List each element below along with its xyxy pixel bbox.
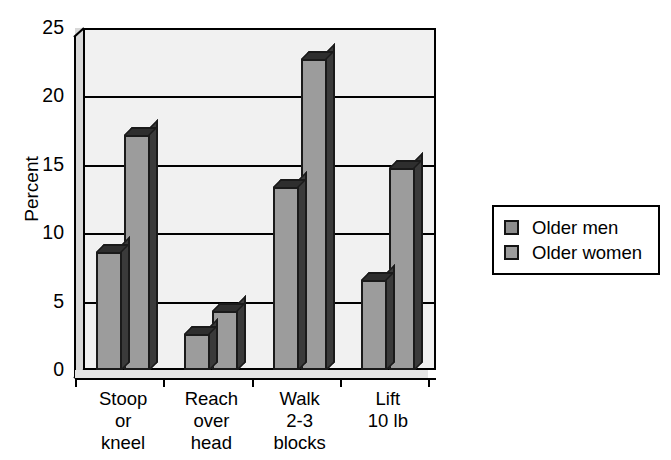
- x-axis-label-line: Lift: [333, 388, 443, 410]
- bar-front-face: [96, 252, 122, 370]
- bar: [361, 280, 387, 370]
- x-tick-mark: [428, 378, 430, 387]
- bar-front-face: [361, 280, 387, 370]
- bar: [184, 334, 210, 370]
- bar-side-face: [415, 152, 423, 370]
- legend-item-older-men[interactable]: Older men: [504, 215, 648, 240]
- bar-side-face: [299, 171, 307, 370]
- legend-swatch-icon: [504, 220, 519, 235]
- bar-front-face: [273, 187, 299, 370]
- x-axis-label: Lift10 lb: [333, 388, 443, 432]
- legend-item-label: Older women: [532, 242, 642, 264]
- x-axis-label-line: blocks: [245, 432, 355, 454]
- x-tick-mark: [252, 378, 254, 387]
- bar-front-face: [184, 334, 210, 370]
- legend-item-label: Older men: [532, 217, 618, 239]
- legend-swatch-icon: [504, 245, 519, 260]
- bar-side-face: [122, 236, 130, 370]
- bar-side-face: [327, 43, 335, 370]
- x-tick-mark: [75, 378, 77, 387]
- bar: [273, 187, 299, 370]
- bar-side-face: [150, 119, 158, 370]
- bar-side-face: [387, 264, 395, 370]
- x-axis-line: [75, 378, 436, 380]
- bar-chart: Percent 0510152025 StooporkneelReachover…: [0, 0, 671, 460]
- legend: Older men Older women: [492, 205, 660, 275]
- bar: [96, 252, 122, 370]
- x-axis-label-line: 10 lb: [333, 410, 443, 432]
- x-tick-mark: [163, 378, 165, 387]
- x-tick-mark: [340, 378, 342, 387]
- legend-item-older-women[interactable]: Older women: [504, 240, 648, 265]
